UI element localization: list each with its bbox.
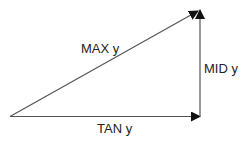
max-y-label: MAX y (81, 42, 119, 55)
tan-y-label: TAN y (97, 122, 132, 135)
mid-y-label: MID y (204, 62, 238, 75)
max-y-arrow (10, 11, 198, 117)
